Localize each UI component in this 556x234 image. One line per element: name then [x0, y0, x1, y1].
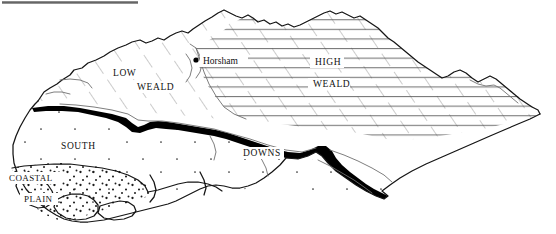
region-fills — [0, 0, 556, 234]
horsham-label: Horsham — [203, 56, 238, 66]
high-weald-label-line2: WEALD — [313, 79, 350, 89]
low-weald-label-line1: LOW — [113, 68, 136, 78]
south-downs-label-line2: DOWNS — [243, 148, 281, 158]
south-downs-label-line1: SOUTH — [61, 141, 96, 151]
horsham-dot-icon — [193, 57, 198, 62]
map-canvas: Horsham LOW WEALD HIGH WEALD SOUTH DOWNS — [0, 0, 556, 234]
low-weald-label-line2: WEALD — [137, 82, 174, 92]
coastal-plain-label-line1: COASTAL — [9, 173, 53, 183]
coastal-plain-label-line2: PLAIN — [24, 194, 53, 204]
place-horsham[interactable]: Horsham — [193, 54, 248, 67]
high-weald-label-line1: HIGH — [315, 57, 341, 67]
map-figure: Horsham LOW WEALD HIGH WEALD SOUTH DOWNS — [0, 0, 556, 234]
